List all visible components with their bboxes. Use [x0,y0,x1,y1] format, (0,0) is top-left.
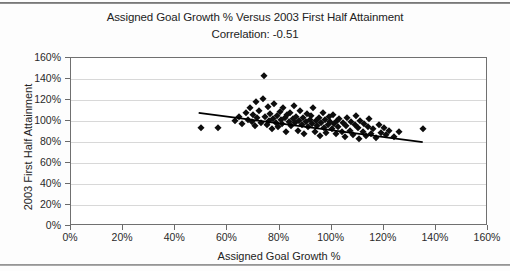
y-tick-label: 160% [17,51,61,63]
gridline [71,184,486,185]
gridline [71,163,486,164]
page-rule-top [0,2,510,4]
x-tick [174,225,175,230]
chart-title: Assigned Goal Growth % Versus 2003 First… [0,11,510,23]
x-tick-label: 140% [412,231,458,243]
x-tick-label: 100% [308,231,354,243]
x-tick-label: 160% [464,231,510,243]
x-tick [383,225,384,230]
data-point [214,124,222,132]
x-tick-label: 120% [360,231,406,243]
x-tick-label: 20% [99,231,145,243]
y-tick-label: 140% [17,72,61,84]
y-tick-label: 0% [17,219,61,231]
x-tick [122,225,123,230]
data-point [197,124,205,132]
x-tick-label: 80% [256,231,302,243]
gridline [71,142,486,143]
gridline [71,79,486,80]
scanned-page: Assigned Goal Growth % Versus 2003 First… [0,0,510,271]
x-tick-label: 0% [47,231,93,243]
x-tick [226,225,227,230]
x-tick-label: 60% [203,231,249,243]
gridline [71,100,486,101]
x-tick [331,225,332,230]
page-rule-bottom [0,264,510,266]
y-tick-label: 100% [17,114,61,126]
y-tick-label: 60% [17,156,61,168]
x-tick [487,225,488,230]
y-tick-label: 20% [17,198,61,210]
data-point [396,128,404,136]
y-tick-label: 80% [17,135,61,147]
plot-area [70,57,487,225]
data-point [255,107,263,115]
gridline [71,205,486,206]
y-axis-title: 2003 First Half Attainment [22,57,34,237]
data-point [282,128,290,136]
x-axis-title: Assigned Goal Growth % [70,250,488,262]
y-tick-label: 40% [17,177,61,189]
chart-subtitle: Correlation: -0.51 [0,28,510,40]
x-tick [70,225,71,230]
trend-line [71,58,486,224]
x-tick [279,225,280,230]
data-point [300,130,308,138]
y-tick-label: 120% [17,93,61,105]
data-point [419,126,427,134]
x-tick [435,225,436,230]
x-tick-label: 40% [151,231,197,243]
